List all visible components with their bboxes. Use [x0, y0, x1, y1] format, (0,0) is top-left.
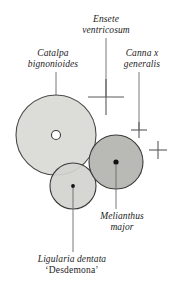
plant-label-ensete: Ensete ventricosum — [62, 14, 150, 36]
plant-label-canna-line1: Canna x — [126, 48, 159, 58]
plant-label-melianthus-line1: Melianthus — [100, 211, 144, 221]
plant-label-ligularia-line1: Ligularia dentata — [38, 254, 106, 264]
plant-label-ensete-line1: Ensete — [93, 14, 119, 24]
plant-label-ligularia: Ligularia dentata ‘Desdemona’ — [8, 254, 136, 276]
plant-center-marker-ligularia — [71, 184, 75, 188]
plant-label-ligularia-cultivar: ‘Desdemona’ — [8, 265, 136, 276]
plant-label-catalpa-line2: bignonioides — [28, 59, 78, 69]
planting-plan-canvas — [0, 0, 176, 290]
plant-label-catalpa-line1: Catalpa — [37, 48, 68, 58]
plant-label-ensete-line2: ventricosum — [82, 25, 130, 35]
plant-symbol-catalpa — [16, 95, 96, 175]
plant-center-marker-melianthus — [113, 159, 118, 164]
plant-label-catalpa: Catalpa bignonioides — [12, 48, 94, 70]
plant-symbol-canna-1 — [131, 122, 147, 138]
plant-label-melianthus: Melianthus major — [84, 211, 160, 233]
plant-label-canna: Canna x generalis — [110, 48, 174, 70]
plant-symbol-ensete — [88, 79, 124, 115]
planting-plan-diagram: Ensete ventricosum Catalpa bignonioides … — [0, 0, 176, 290]
plant-symbol-canna-2 — [149, 141, 167, 159]
plant-label-canna-line2: generalis — [124, 59, 160, 69]
plant-center-marker-catalpa — [52, 131, 61, 140]
plant-label-melianthus-line2: major — [110, 222, 133, 232]
